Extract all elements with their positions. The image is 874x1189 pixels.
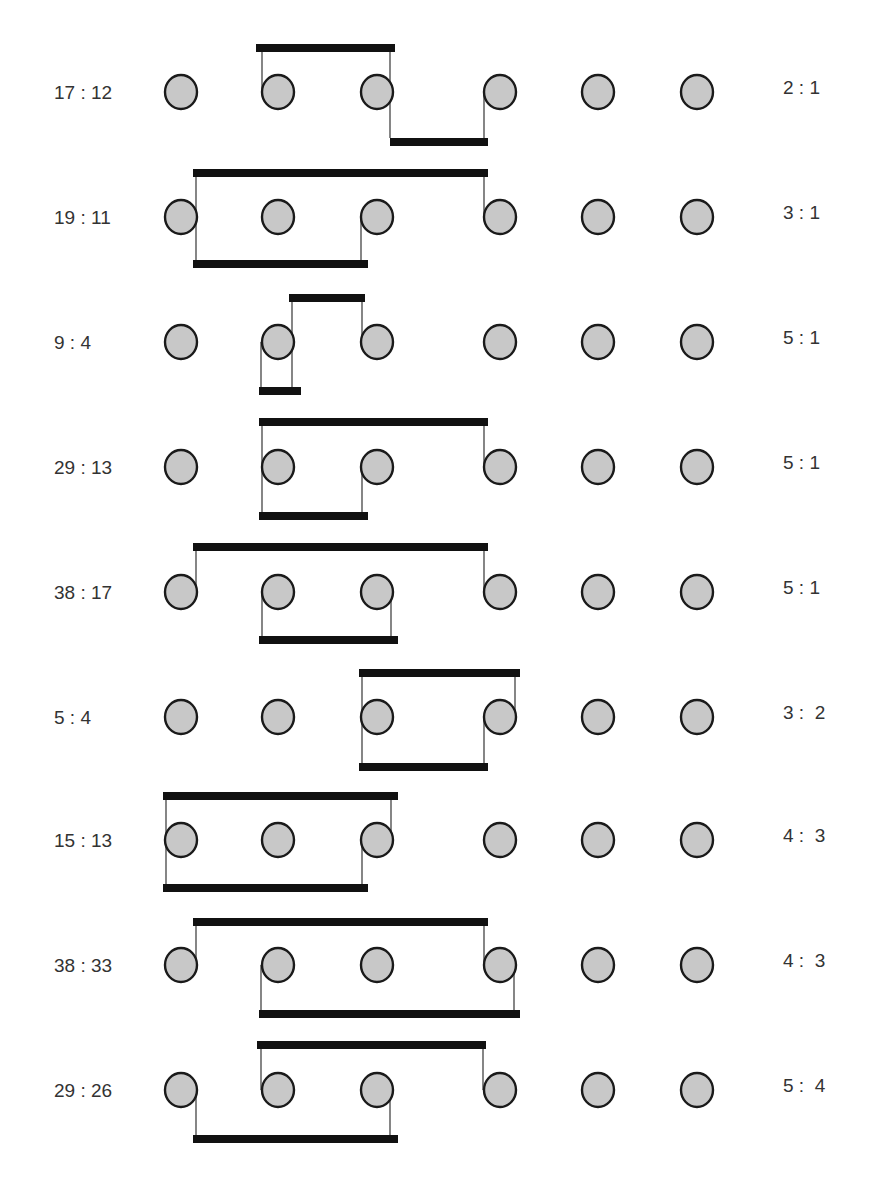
- right-ratio-label: 3 : 1: [783, 202, 820, 223]
- ratio-row: 9 : 45 : 1: [54, 294, 820, 395]
- pulley-circle: [582, 575, 614, 609]
- ratio-row: 5 : 43 : 2: [54, 669, 825, 771]
- belt-bar: [359, 763, 488, 771]
- pulley-circle: [361, 200, 393, 234]
- pulley-circle: [262, 700, 294, 734]
- belt-bar: [259, 387, 301, 395]
- pulley-circle: [484, 325, 516, 359]
- pulley-circle: [484, 823, 516, 857]
- pulley-circle: [582, 450, 614, 484]
- pulley-circle: [681, 575, 713, 609]
- pulley-circle: [262, 575, 294, 609]
- right-ratio-label: 5 : 4: [783, 1075, 826, 1096]
- belt-bar: [289, 294, 365, 302]
- pulley-circle: [165, 700, 197, 734]
- ratio-row: 17 : 122 : 1: [54, 44, 820, 146]
- ratio-row: 38 : 334 : 3: [54, 918, 825, 1018]
- pulley-circle: [262, 823, 294, 857]
- left-ratio-label: 38 : 33: [54, 955, 112, 976]
- pulley-circle: [165, 200, 197, 234]
- pulley-circle: [361, 700, 393, 734]
- pulley-circle: [582, 200, 614, 234]
- left-ratio-label: 38 : 17: [54, 582, 112, 603]
- pulley-circle: [165, 75, 197, 109]
- pulley-circle: [262, 200, 294, 234]
- pulley-circle: [361, 325, 393, 359]
- pulley-circle: [361, 1073, 393, 1107]
- pulley-circle: [262, 948, 294, 982]
- right-ratio-label: 4 : 3: [783, 825, 825, 846]
- pulley-circle: [262, 450, 294, 484]
- pulley-circle: [165, 823, 197, 857]
- belt-bar: [259, 512, 368, 520]
- pulley-circle: [484, 948, 516, 982]
- pulley-circle: [484, 450, 516, 484]
- belt-bar: [257, 1041, 486, 1049]
- belt-bar: [193, 1135, 398, 1143]
- right-ratio-label: 4 : 3: [783, 950, 825, 971]
- pulley-circle: [262, 1073, 294, 1107]
- right-ratio-label: 5 : 1: [783, 577, 820, 598]
- pulley-circle: [262, 325, 294, 359]
- pulley-circle: [582, 1073, 614, 1107]
- pulley-circle: [165, 575, 197, 609]
- pulley-circle: [681, 200, 713, 234]
- pulley-circle: [361, 575, 393, 609]
- belt-bar: [259, 636, 398, 644]
- left-ratio-label: 17 : 12: [54, 82, 112, 103]
- right-ratio-label: 5 : 1: [783, 452, 820, 473]
- belt-bar: [193, 918, 488, 926]
- pulley-circle: [361, 450, 393, 484]
- pulley-circle: [484, 75, 516, 109]
- pulley-ratio-diagram: 17 : 122 : 119 : 113 : 19 : 45 : 129 : 1…: [0, 0, 874, 1189]
- pulley-circle: [681, 75, 713, 109]
- right-ratio-label: 5 : 1: [783, 327, 820, 348]
- pulley-circle: [681, 325, 713, 359]
- pulley-circle: [165, 325, 197, 359]
- pulley-circle: [361, 948, 393, 982]
- pulley-circle: [165, 1073, 197, 1107]
- pulley-circle: [582, 75, 614, 109]
- ratio-row: 15 : 134 : 3: [54, 792, 825, 892]
- pulley-circle: [582, 325, 614, 359]
- belt-bar: [256, 44, 395, 52]
- ratio-row: 29 : 135 : 1: [54, 418, 820, 520]
- belt-bar: [193, 169, 488, 177]
- belt-bar: [193, 260, 368, 268]
- pulley-circle: [681, 450, 713, 484]
- left-ratio-label: 9 : 4: [54, 332, 91, 353]
- ratio-row: 29 : 265 : 4: [54, 1041, 826, 1143]
- belt-bar: [259, 1010, 520, 1018]
- ratio-row: 19 : 113 : 1: [54, 169, 820, 268]
- left-ratio-label: 15 : 13: [54, 830, 112, 851]
- left-ratio-label: 19 : 11: [54, 207, 111, 228]
- pulley-circle: [681, 948, 713, 982]
- right-ratio-label: 2 : 1: [783, 77, 820, 98]
- pulley-circle: [361, 75, 393, 109]
- pulley-circle: [582, 948, 614, 982]
- left-ratio-label: 29 : 26: [54, 1080, 112, 1101]
- pulley-circle: [681, 823, 713, 857]
- belt-bar: [163, 792, 398, 800]
- belt-bar: [390, 138, 488, 146]
- belt-bar: [163, 884, 368, 892]
- pulley-circle: [484, 1073, 516, 1107]
- pulley-circle: [484, 200, 516, 234]
- pulley-circle: [262, 75, 294, 109]
- belt-bar: [193, 543, 488, 551]
- right-ratio-label: 3 : 2: [783, 702, 825, 723]
- pulley-circle: [582, 823, 614, 857]
- pulley-circle: [582, 700, 614, 734]
- ratio-row: 38 : 175 : 1: [54, 543, 820, 644]
- belt-bar: [259, 418, 488, 426]
- belt-bar: [359, 669, 520, 677]
- left-ratio-label: 29 : 13: [54, 457, 112, 478]
- pulley-circle: [484, 700, 516, 734]
- pulley-circle: [361, 823, 393, 857]
- pulley-circle: [165, 948, 197, 982]
- pulley-circle: [681, 700, 713, 734]
- pulley-circle: [165, 450, 197, 484]
- pulley-circle: [681, 1073, 713, 1107]
- pulley-circle: [484, 575, 516, 609]
- left-ratio-label: 5 : 4: [54, 707, 91, 728]
